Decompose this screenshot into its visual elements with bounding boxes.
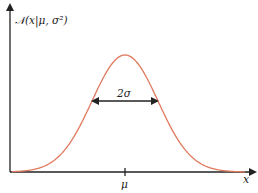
two-sigma-label: 2σ xyxy=(116,87,132,99)
x-axis-label: x xyxy=(243,173,250,186)
gaussian-curve xyxy=(12,55,245,172)
y-axis-label: 𝒩(x|μ, σ²) xyxy=(15,14,68,28)
gaussian-figure: 𝒩(x|μ, σ²) x μ 2σ xyxy=(0,0,258,193)
mean-label: μ xyxy=(121,178,128,190)
